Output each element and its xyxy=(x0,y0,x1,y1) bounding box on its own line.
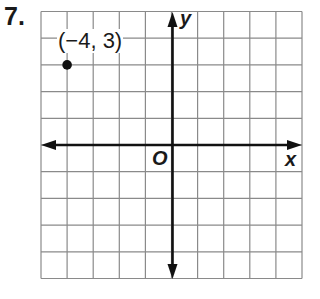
y-axis-down-arrow-icon xyxy=(168,264,178,279)
y-axis-up-arrow-icon xyxy=(168,12,178,27)
origin-label: O xyxy=(152,148,168,168)
point-label: (−4, 3) xyxy=(57,29,123,53)
y-axis-label: y xyxy=(180,8,191,28)
x-axis-label: x xyxy=(285,149,296,169)
x-axis-left-arrow-icon xyxy=(41,140,56,150)
plotted-points xyxy=(62,60,72,70)
plotted-point xyxy=(62,60,72,70)
